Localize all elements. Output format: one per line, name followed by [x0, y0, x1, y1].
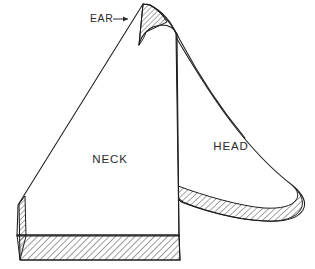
neck-label: NECK	[92, 153, 128, 165]
diagram-canvas: NECK HEAD EAR	[0, 0, 315, 269]
ear-arrow-icon	[113, 17, 128, 22]
neck-bottom-hatching	[17, 235, 180, 260]
ear-label: EAR	[90, 12, 113, 24]
neck-region	[17, 4, 179, 236]
head-label: HEAD	[213, 140, 249, 152]
neck-outline	[17, 4, 179, 236]
technical-diagram: NECK HEAD EAR	[0, 0, 315, 269]
neck-bottom-edge-band	[17, 235, 180, 260]
